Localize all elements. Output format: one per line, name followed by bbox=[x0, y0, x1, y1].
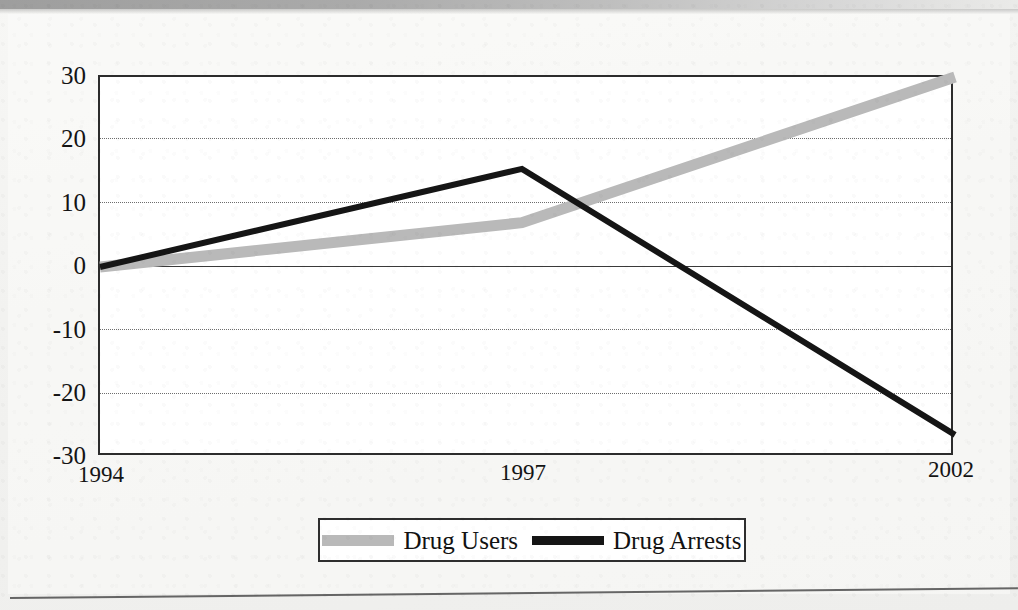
y-axis-label-neg20: -20 bbox=[8, 380, 86, 405]
line-chart-figure: 30 20 10 0 -10 -20 -30 1994 1997 2002 bbox=[0, 0, 1018, 610]
legend-item-drug-users: Drug Users bbox=[322, 528, 518, 553]
plot-area bbox=[98, 75, 953, 455]
series-line-drug-arrests bbox=[100, 169, 955, 435]
y-axis-label-neg30: -30 bbox=[8, 443, 86, 468]
y-axis-label-neg10: -10 bbox=[8, 317, 86, 342]
y-axis-label-30: 30 bbox=[8, 63, 86, 88]
y-axis-label-10: 10 bbox=[8, 190, 86, 215]
legend-swatch-gray-line-icon bbox=[322, 535, 394, 546]
legend-label-drug-users: Drug Users bbox=[403, 528, 518, 553]
legend-swatch-black-line-icon bbox=[532, 536, 604, 545]
x-axis-label-1997: 1997 bbox=[500, 461, 546, 484]
x-axis-label-2002: 2002 bbox=[928, 458, 974, 481]
chart-legend: Drug Users Drug Arrests bbox=[318, 518, 746, 562]
x-axis-label-1994: 1994 bbox=[78, 463, 124, 486]
legend-label-drug-arrests: Drug Arrests bbox=[613, 528, 741, 553]
series-lines bbox=[100, 77, 955, 457]
scanned-page: 30 20 10 0 -10 -20 -30 1994 1997 2002 bbox=[0, 0, 1018, 610]
y-axis-label-20: 20 bbox=[8, 126, 86, 151]
legend-item-drug-arrests: Drug Arrests bbox=[532, 528, 741, 553]
y-axis-label-0: 0 bbox=[8, 253, 86, 278]
